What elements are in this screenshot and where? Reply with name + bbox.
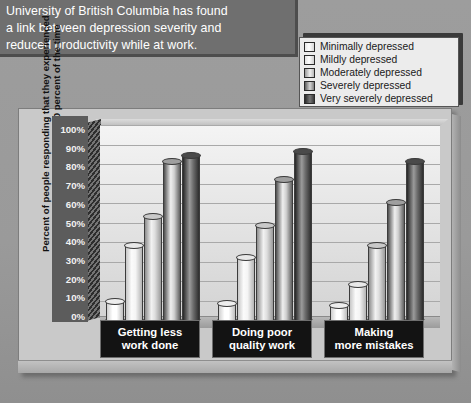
bar (218, 304, 236, 320)
y-axis-title-line-1: Percent of people responding that they e… (40, 22, 52, 252)
y-axis-tick-label: 30% (66, 256, 85, 266)
gridline (100, 145, 440, 146)
bar-top-ellipse (105, 298, 125, 305)
bar-top-ellipse (181, 152, 201, 159)
bar (349, 285, 367, 320)
bar-body (256, 226, 274, 320)
bar-body (125, 246, 143, 320)
bar (125, 246, 143, 320)
legend-item: Mildly depressed (304, 53, 458, 66)
legend-swatch-icon (304, 94, 315, 104)
bar (294, 152, 312, 320)
bar-top-ellipse (386, 199, 406, 206)
legend-swatch-icon (304, 55, 315, 65)
x-axis-category-label-line: quality work (229, 339, 295, 352)
plot-area (100, 125, 440, 320)
bar-body (144, 217, 162, 320)
gridline (100, 164, 440, 165)
x-axis-category-label: Getting lesswork done (100, 320, 200, 358)
bar-body (387, 203, 405, 320)
y-axis-tick-label: 40% (66, 237, 85, 247)
bar-body (406, 162, 424, 320)
legend-item: Very severely depressed (304, 92, 458, 105)
chart-legend: Minimally depressed Mildly depressed Mod… (299, 37, 459, 107)
y-axis-tick-label: 10% (66, 293, 85, 303)
legend-item-label: Severely depressed (320, 80, 411, 92)
bar-body (275, 180, 293, 320)
legend-swatch-icon (304, 81, 315, 91)
bar (406, 162, 424, 320)
x-axis-category-row: Getting lesswork doneDoing poorquality w… (96, 320, 446, 362)
bar-top-ellipse (236, 254, 256, 261)
x-axis-category-label-line: Doing poor (232, 326, 292, 339)
bar-top-ellipse (255, 222, 275, 229)
legend-item-label: Mildly depressed (320, 54, 397, 66)
bar-body (163, 162, 181, 320)
chart-plate-right-bevel (452, 114, 461, 372)
x-axis-category-label-line: Making (355, 326, 394, 339)
y-axis-tick-label: 80% (66, 162, 85, 172)
chart-infographic: University of British Columbia has found… (0, 0, 471, 403)
bar (275, 180, 293, 320)
bar (237, 258, 255, 320)
legend-item-label: Moderately depressed (320, 67, 422, 79)
bar (387, 203, 405, 320)
bar-top-ellipse (293, 148, 313, 155)
bar-body (182, 156, 200, 320)
y-axis-tick-label: 90% (66, 144, 85, 154)
bar (256, 226, 274, 320)
bar-top-ellipse (405, 158, 425, 165)
x-axis-category-label-line: more mistakes (334, 339, 413, 352)
gridline (100, 184, 440, 185)
bar (182, 156, 200, 320)
y-axis-tick-band: 100%90%80%70%60%50%40%30%20%10%0% (52, 116, 88, 322)
bar-top-ellipse (348, 281, 368, 288)
legend-item: Severely depressed (304, 79, 458, 92)
bar-top-ellipse (143, 213, 163, 220)
bar (368, 246, 386, 320)
y-axis-tick-label: 50% (66, 219, 85, 229)
gridline (100, 125, 440, 126)
legend-swatch-icon (304, 68, 315, 78)
legend-item-label: Very severely depressed (320, 93, 433, 105)
bar-body (294, 152, 312, 320)
x-axis-category-label-line: work done (122, 339, 179, 352)
bar (106, 302, 124, 320)
bar-body (368, 246, 386, 320)
bar (163, 162, 181, 320)
bar-top-ellipse (367, 242, 387, 249)
bar-top-ellipse (217, 300, 237, 307)
bar-body (237, 258, 255, 320)
bar-body (349, 285, 367, 320)
bar-top-ellipse (329, 302, 349, 309)
bar-top-ellipse (162, 158, 182, 165)
bar (144, 217, 162, 320)
x-axis-category-label-line: Getting less (118, 326, 183, 339)
legend-item: Moderately depressed (304, 66, 458, 79)
y-axis-tick-label: 60% (66, 200, 85, 210)
chart-plate-apron (18, 360, 452, 373)
bar (330, 306, 348, 320)
y-axis-tick-label: 20% (66, 275, 85, 285)
bar-top-ellipse (124, 242, 144, 249)
y-axis-tick-label: 70% (66, 181, 85, 191)
legend-item-label: Minimally depressed (320, 41, 414, 53)
y-axis-tick-label: 0% (71, 312, 85, 322)
x-axis-category-label: Doing poorquality work (212, 320, 312, 358)
legend-item: Minimally depressed (304, 40, 458, 53)
x-axis-category-label: Makingmore mistakes (324, 320, 424, 358)
y-axis-tick-label: 100% (60, 125, 85, 135)
bar-top-ellipse (274, 176, 294, 183)
legend-swatch-icon (304, 42, 315, 52)
